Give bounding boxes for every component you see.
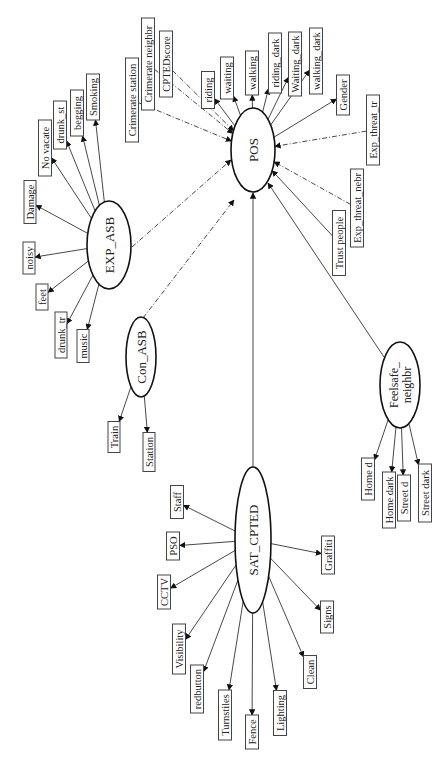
observed-variable-home-d: Home d xyxy=(362,458,375,500)
variable-label: Home d xyxy=(363,461,374,495)
latent-variable-sat-cpted: SAT_CPTED xyxy=(235,467,271,613)
edge-fence xyxy=(252,613,253,715)
observed-variable-walking-dark: walking_dark xyxy=(310,28,323,94)
edge-graffiti xyxy=(271,544,322,554)
latent-label: Feelsafe_ xyxy=(387,361,401,408)
variable-label: redbutton xyxy=(192,668,203,709)
observed-variable-street-dark: Street dark xyxy=(419,464,432,522)
observed-variable-lighting: Lighting xyxy=(274,691,287,736)
observed-variable-gender: Gender xyxy=(337,75,350,115)
latent-variable-feelsafe-neighbr: Feelsafe_neighbr xyxy=(380,342,420,428)
variable-label: Lighting xyxy=(275,694,286,731)
variable-label: No vacate xyxy=(40,127,51,170)
observed-variable-begging: begging xyxy=(71,90,84,136)
variable-label: Exp_threat_nebr xyxy=(352,173,363,243)
edge-turnstiles xyxy=(229,601,243,690)
variable-label: Damage xyxy=(25,184,36,219)
variable-label: Crimerate station xyxy=(127,63,138,136)
variable-label: walking_dark xyxy=(311,31,322,89)
observed-variable-smoking: Smoking xyxy=(87,74,100,120)
observed-variable-train: Train xyxy=(108,422,120,453)
observed-variable-graffiti: Graffiti xyxy=(322,536,335,574)
observed-variable-trust-people: Trust people xyxy=(333,211,346,276)
edge-exp-asb-to-pos xyxy=(132,160,231,247)
observed-variable-redbutton: redbutton xyxy=(191,665,204,713)
variable-label: PSO xyxy=(168,536,179,556)
variable-label: feet xyxy=(37,289,48,305)
observed-variable-drunk-tr: drunk_tr xyxy=(55,312,67,358)
observed-variable-turnstiles: Turnstiles xyxy=(219,690,232,740)
edge-feet xyxy=(48,261,88,292)
latent-label: EXP_ASB xyxy=(102,217,117,274)
variable-label: drunk_st xyxy=(55,107,66,144)
variable-label: CCTV xyxy=(159,578,170,606)
edge-begging xyxy=(83,136,100,205)
variable-label: riding xyxy=(203,77,214,103)
latent-label: SAT_CPTED xyxy=(246,505,261,576)
observed-variable-exp-threat-tr: Exp_threat_tr xyxy=(367,95,380,165)
edge-cctv xyxy=(171,550,236,588)
observed-variable-music: music xyxy=(77,330,89,363)
edge-home-d xyxy=(375,420,389,460)
observed-variable-damage: Damage xyxy=(24,181,36,224)
observed-variable-crimerate-station: Crimerate station xyxy=(126,58,139,142)
observed-variable-street-d: Street d xyxy=(398,475,411,521)
variable-label: noisy xyxy=(24,246,35,270)
variable-label: begging xyxy=(72,95,83,130)
edge-visibility xyxy=(186,565,237,640)
variable-label: Clean xyxy=(305,659,316,684)
variable-label: Turnstiles xyxy=(220,694,231,736)
edge-signs xyxy=(270,558,320,610)
edge-feelsafe-neighbr-to-pos xyxy=(268,183,384,357)
variable-label: Exp_threat_tr xyxy=(368,101,379,159)
observed-variable-clean: Clean xyxy=(304,656,317,689)
observed-variable-feet: feet xyxy=(36,284,48,310)
edge-waiting xyxy=(234,96,241,115)
edge-station xyxy=(144,396,147,432)
latent-label: Con_ASB xyxy=(134,330,149,384)
variable-label: waiting xyxy=(222,62,233,94)
observed-variable-waiting: waiting xyxy=(221,57,234,99)
variable-label: Smoking xyxy=(88,77,99,116)
edge-clean xyxy=(269,576,304,657)
variable-label: Fence xyxy=(247,719,258,744)
edge-pso xyxy=(180,541,236,545)
edge-lighting xyxy=(263,602,277,691)
edge-damage xyxy=(36,205,88,233)
edge-street-d xyxy=(402,428,404,475)
variable-label: Street dark xyxy=(420,469,431,516)
observed-variable-no-vacate: No vacate xyxy=(39,120,52,176)
edge-smoking xyxy=(95,120,104,202)
observed-variable-waiting-dark: Waiting_dark xyxy=(289,32,302,96)
latent-variable-pos: POS xyxy=(231,108,275,192)
variable-label: Trust people xyxy=(334,216,345,269)
edge-riding-dark xyxy=(263,89,269,112)
edge-staff xyxy=(184,505,236,531)
variable-label: Staff xyxy=(172,491,183,512)
edge-con-asb-to-pos xyxy=(143,200,234,318)
observed-variable-cptedscore: CPTEDscore xyxy=(160,31,173,97)
nodes-layer: ridingwaitingwalkingriding_darkWaiting_d… xyxy=(23,18,432,749)
observed-variable-station: Station xyxy=(143,433,155,472)
observed-variable-staff: Staff xyxy=(171,486,184,519)
observed-variable-riding-dark: riding_dark xyxy=(269,33,282,93)
edge-exp-threat-tr xyxy=(275,131,367,146)
observed-variable-visibility: Visibility xyxy=(173,624,186,674)
latent-label: POS xyxy=(246,138,261,162)
edge-redbutton xyxy=(204,580,238,672)
variable-label: drunk_tr xyxy=(56,316,67,353)
edge-gender xyxy=(274,99,337,137)
observed-variable-drunk-st: drunk_st xyxy=(54,101,67,149)
observed-variable-noisy: noisy xyxy=(23,242,35,274)
observed-variable-crimerate-neighbr: Crimerate neighbr xyxy=(142,18,155,110)
variable-label: Graffiti xyxy=(323,539,334,570)
variable-label: Home dark xyxy=(384,476,395,524)
observed-variable-fence: Fence xyxy=(246,715,259,749)
variable-label: Crimerate neighbr xyxy=(143,25,154,102)
variable-label: Visibility xyxy=(174,629,185,669)
observed-variable-exp-threat-nebr: Exp_threat_nebr xyxy=(351,169,364,247)
variable-label: Street d xyxy=(399,481,410,514)
edge-home-dark xyxy=(392,427,396,472)
edge-exp-threat-nebr xyxy=(274,162,350,205)
edge-train xyxy=(119,387,131,422)
